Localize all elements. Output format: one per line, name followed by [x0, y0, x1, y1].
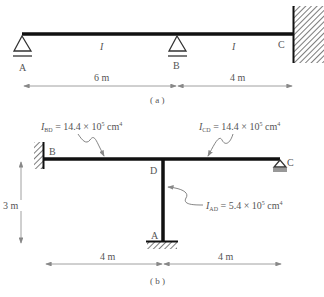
member-label-bc: I	[231, 41, 236, 52]
member-label-ab: I	[99, 41, 104, 52]
diagram-b: B C D A IBD = 14.4 × 105 cm4 ICD = 14.4 …	[2, 121, 294, 286]
node-label-d: D	[150, 165, 157, 176]
roller-support-c-icon	[273, 160, 287, 171]
pin-support-b-icon	[168, 36, 187, 56]
fixed-wall-b	[34, 142, 43, 169]
dimension-label-ab: 6 m	[94, 72, 110, 83]
leader-cd	[208, 134, 233, 156]
dimension-label-bd: 4 m	[100, 251, 116, 262]
diagram-a: A B C I I 6 m 4 m ( a )	[13, 6, 324, 105]
node-label-a2: A	[151, 230, 159, 241]
node-label-c: C	[278, 39, 285, 50]
dimension-label-bc: 4 m	[230, 72, 246, 83]
dimension-label-dc: 4 m	[218, 251, 234, 262]
fixed-wall-c	[294, 6, 324, 63]
annotation-i-bd: IBD = 14.4 × 105 cm4	[40, 121, 122, 133]
annotation-i-ad: IAD = 5.4 × 105 cm4	[205, 200, 283, 212]
node-label-a: A	[19, 62, 27, 73]
caption-b: ( b )	[150, 276, 165, 286]
node-label-b: B	[173, 60, 180, 71]
pin-support-a-icon	[13, 36, 32, 56]
fixed-base-a	[147, 242, 177, 249]
caption-a: ( a )	[150, 95, 165, 105]
dimension-label-height: 3 m	[3, 200, 19, 211]
annotation-i-cd: ICD = 14.4 × 105 cm4	[198, 121, 280, 133]
structure-diagrams: A B C I I 6 m 4 m ( a ) B C D A	[0, 0, 324, 297]
leader-bd	[78, 134, 104, 156]
leader-ad	[168, 187, 203, 205]
node-label-c2: C	[287, 157, 294, 168]
node-label-b2: B	[49, 146, 56, 157]
